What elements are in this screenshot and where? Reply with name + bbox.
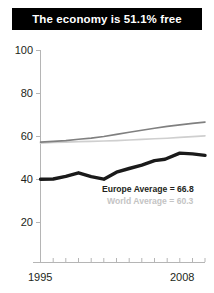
series-world-average bbox=[41, 136, 206, 143]
title-banner: The economy is 51.1% free bbox=[12, 8, 202, 30]
x-tick-marks bbox=[41, 258, 206, 262]
y-tick-label-100: 100 bbox=[15, 44, 33, 56]
x-tick-label-end: 2008 bbox=[170, 271, 194, 283]
chart-page: The economy is 51.1% free bbox=[0, 0, 214, 293]
annotation-world-average: World Average = 60.3 bbox=[107, 196, 194, 206]
y-tick-label-80: 80 bbox=[21, 87, 33, 99]
line-chart: 100 80 60 40 20 1995 2008 Europe Average… bbox=[0, 34, 214, 293]
page-title: The economy is 51.1% free bbox=[32, 13, 182, 25]
x-tick-label-start: 1995 bbox=[28, 271, 52, 283]
y-tick-label-60: 60 bbox=[21, 130, 33, 142]
y-tick-label-20: 20 bbox=[21, 216, 33, 228]
annotation-europe-average: Europe Average = 66.8 bbox=[102, 184, 194, 194]
y-tick-marks bbox=[36, 51, 40, 223]
y-tick-label-40: 40 bbox=[21, 173, 33, 185]
series-europe-average bbox=[41, 122, 206, 142]
series-country-score bbox=[41, 153, 206, 179]
